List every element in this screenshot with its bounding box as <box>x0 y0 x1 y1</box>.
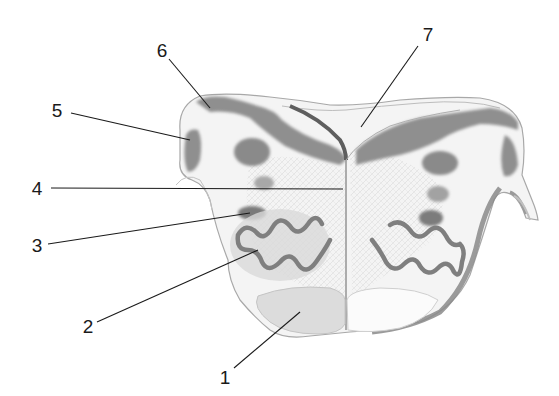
label-6: 6 <box>157 41 168 60</box>
label-3: 3 <box>32 236 43 255</box>
leader-line-5 <box>71 113 190 140</box>
label-7: 7 <box>423 25 434 44</box>
diagram-stage: 1 2 3 4 5 6 7 <box>0 0 559 396</box>
medulla-cross-section <box>0 0 559 396</box>
label-4: 4 <box>32 179 43 198</box>
leader-line-6 <box>169 59 210 108</box>
label-2: 2 <box>83 317 94 336</box>
olivary-complex-left <box>230 209 330 281</box>
label-5: 5 <box>52 101 63 120</box>
label-1: 1 <box>220 368 231 387</box>
